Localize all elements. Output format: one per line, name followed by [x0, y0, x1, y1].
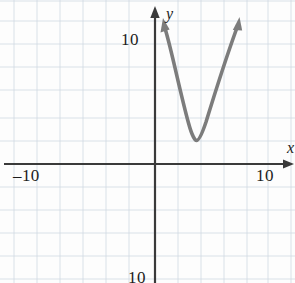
- figure-background: [0, 0, 295, 283]
- graph-figure: [0, 0, 295, 283]
- y-axis-tick-label-10: 10: [121, 31, 139, 48]
- x-axis-label: x: [287, 140, 295, 156]
- y-axis-label: y: [166, 6, 174, 22]
- x-axis-tick-label-neg-10: –10: [13, 167, 40, 184]
- x-axis-tick-label-10: 10: [256, 167, 274, 184]
- y-axis-tick-label-bottom-10: 10: [128, 269, 146, 283]
